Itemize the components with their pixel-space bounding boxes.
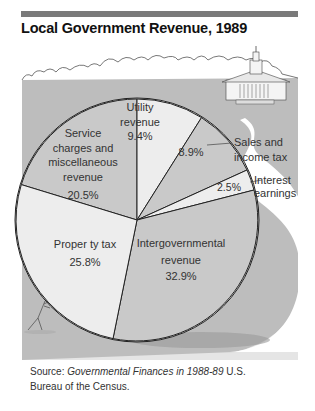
- label-property-line1: Proper ty tax: [44, 235, 126, 253]
- label-sales-line1: Sales and: [234, 135, 287, 150]
- label-property-tax: Proper ty tax 25.8%: [44, 235, 126, 271]
- label-intergov-line1: Intergovernmental: [135, 235, 227, 252]
- source-line2: Bureau of the Census.: [30, 379, 246, 394]
- label-property-value: 25.8%: [44, 253, 126, 271]
- label-service-line2: charges and: [40, 141, 126, 156]
- label-interest-line2: earnings: [254, 187, 296, 200]
- label-service-line4: revenue: [40, 170, 126, 185]
- label-service-charges: Service charges and miscellaneous revenu…: [40, 126, 126, 203]
- label-service-line3: miscellaneous: [40, 155, 126, 170]
- source-title: Governmental Finances in 1988-89: [67, 366, 223, 377]
- label-utility-line1: Utility: [115, 100, 165, 115]
- label-sales-line2: income tax: [234, 150, 287, 165]
- label-intergov-value: 32.9%: [135, 268, 227, 285]
- pie-chart-illustration: [0, 0, 315, 411]
- source-prefix: Source:: [30, 366, 67, 377]
- label-sales-income-tax: Sales and income tax: [234, 135, 287, 164]
- label-intergovernmental: Intergovernmental revenue 32.9%: [135, 235, 227, 285]
- source-note: Source: Governmental Finances in 1988-89…: [30, 364, 246, 394]
- label-interest-earnings: Interest earnings: [254, 174, 296, 200]
- label-interest-line1: Interest: [254, 174, 296, 187]
- label-service-value: 20.5%: [40, 188, 126, 203]
- label-sales-value: 8.9%: [174, 145, 208, 160]
- label-service-line1: Service: [40, 126, 126, 141]
- source-suffix: U.S.: [223, 366, 245, 377]
- label-interest-value: 2.5%: [214, 180, 244, 195]
- label-intergov-line2: revenue: [135, 252, 227, 269]
